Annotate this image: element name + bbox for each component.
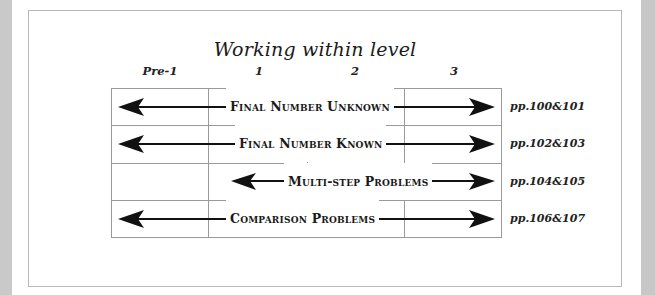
level-header-3: 3 <box>414 64 494 78</box>
row-label: Final Number Known <box>235 125 386 162</box>
row-label: Multi-step Problems <box>284 163 432 200</box>
level-header-2: 2 <box>315 64 395 78</box>
right-margin-panel <box>641 0 655 295</box>
level-row-comparison-problems: Comparison Problems <box>111 200 502 237</box>
level-header-1: 1 <box>219 64 299 78</box>
page-reference: pp.102&103 <box>510 125 585 162</box>
level-row-final-number-unknown: Final Number Unknown <box>111 88 502 125</box>
page-reference: pp.104&105 <box>510 163 585 200</box>
level-row-multi-step-problems: Multi-step Problems <box>111 163 502 200</box>
grid-line <box>111 237 502 238</box>
diagram-title: Working within level <box>0 38 630 60</box>
page-reference: pp.106&107 <box>510 200 585 237</box>
row-label: Final Number Unknown <box>226 88 394 125</box>
level-header-pre-1: Pre-1 <box>120 64 200 78</box>
level-row-final-number-known: Final Number Known <box>111 125 502 162</box>
row-label: Comparison Problems <box>226 200 379 237</box>
page-reference: pp.100&101 <box>510 88 585 125</box>
